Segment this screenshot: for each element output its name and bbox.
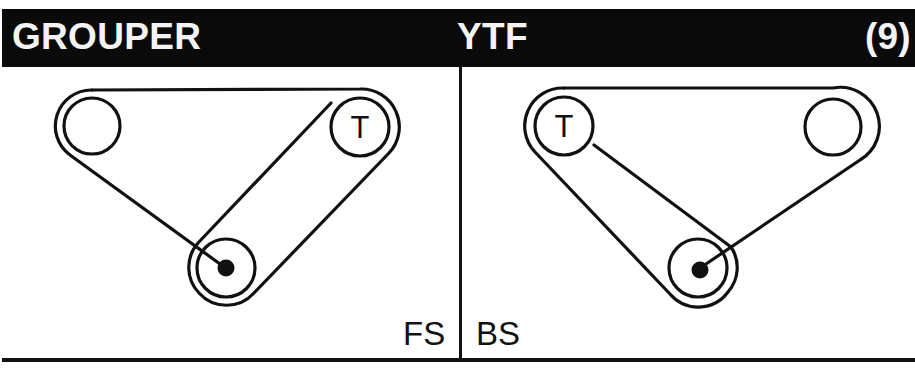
tensioner-label: T	[555, 109, 574, 144]
idler-pulley	[805, 99, 861, 155]
belt-left-strand	[55, 90, 220, 264]
outer-belt	[564, 87, 879, 264]
bottom-rule	[2, 358, 915, 362]
crank-center-dot	[692, 262, 709, 279]
belt-routing-diagram: T T	[0, 0, 915, 371]
back-side-label: BS	[476, 316, 520, 352]
panel-divider	[459, 67, 462, 360]
front-side-label: FS	[403, 316, 445, 352]
idler-pulley	[64, 98, 120, 154]
crank-center-dot	[218, 260, 235, 277]
tensioner-label: T	[351, 110, 370, 145]
